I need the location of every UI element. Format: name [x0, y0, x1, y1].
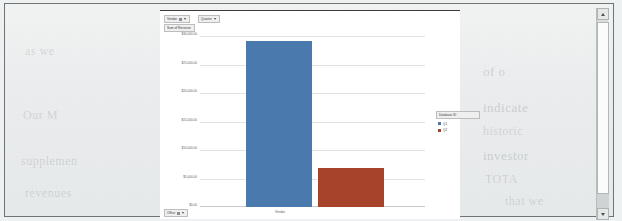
legend-item: Q2 [436, 128, 480, 132]
gridline [200, 36, 425, 37]
y-tick-label: $10,000.00 [153, 147, 197, 150]
arrow-up-icon [601, 13, 605, 16]
gridline [200, 93, 425, 94]
chevron-down-icon [214, 18, 216, 20]
ghost-text: of o [483, 64, 506, 80]
y-tick-label: $30,000.00 [153, 33, 197, 36]
y-tick-label: $0.00 [153, 204, 197, 207]
row-field-button[interactable]: Vendor [164, 15, 190, 23]
ghost-text: investor [483, 148, 529, 164]
value-field-button[interactable]: Sum of Revenue [164, 24, 195, 32]
gridline [200, 179, 425, 180]
y-tick-label: $20,000.00 [153, 90, 197, 93]
scanned-page: and cour of o indicate historic investor… [4, 3, 614, 217]
filter-icon [179, 18, 182, 21]
ghost-text: revenues [25, 186, 72, 201]
ghost-text: as we [25, 44, 55, 59]
page-field-label: Office [167, 212, 175, 215]
column-field-button[interactable]: Quarter [198, 15, 220, 23]
ghost-text: that we [505, 194, 544, 209]
legend-label: Q2 [443, 128, 447, 132]
gridline [200, 122, 425, 123]
y-tick-label: $5,000.00 [153, 176, 197, 179]
page-field-button[interactable]: Office [164, 209, 188, 217]
chevron-down-icon [184, 18, 186, 20]
chart-legend: Database ID Q1 Q2 [436, 111, 480, 132]
arrow-down-icon [601, 213, 605, 216]
legend-item: Q1 [436, 122, 480, 126]
x-axis-line [200, 206, 425, 207]
ghost-text: Our M [23, 108, 58, 123]
y-tick-label: $25,000.00 [153, 62, 197, 65]
bar-series-q2[interactable] [318, 168, 384, 207]
bar-series-q1[interactable] [246, 41, 312, 207]
x-tick-label: Vendor [250, 210, 310, 214]
vertical-scrollbar[interactable] [596, 8, 608, 220]
legend-swatch-q1 [438, 122, 441, 125]
ghost-text: historic [483, 124, 523, 139]
plot-area [200, 36, 425, 207]
y-tick-label: $15,000.00 [153, 119, 197, 122]
gridline [200, 150, 425, 151]
row-field-label: Vendor [167, 18, 177, 21]
ghost-text: supplemen [21, 154, 78, 169]
legend-title: Database ID [439, 114, 456, 117]
gridline [200, 65, 425, 66]
legend-filter-button[interactable]: Database ID [436, 111, 480, 119]
pivot-chart[interactable]: Vendor Quarter Sum of Revenue Office $0.… [160, 10, 460, 219]
ghost-text: TOTA [485, 172, 518, 187]
filter-icon [177, 212, 180, 215]
screenshot-root: and cour of o indicate historic investor… [0, 0, 622, 221]
scroll-down-button[interactable] [597, 208, 609, 220]
legend-label: Q1 [443, 122, 447, 126]
ghost-text: indicate [483, 100, 528, 116]
scrollbar-thumb[interactable] [597, 22, 609, 194]
scroll-up-button[interactable] [597, 8, 609, 20]
legend-swatch-q2 [438, 129, 441, 132]
column-field-label: Quarter [201, 18, 212, 21]
value-field-label: Sum of Revenue [167, 27, 191, 30]
chevron-down-icon [182, 212, 184, 214]
